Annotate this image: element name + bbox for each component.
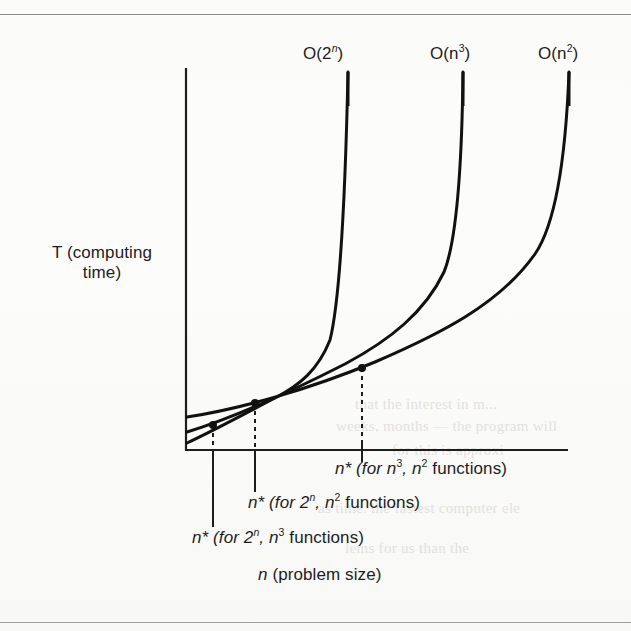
annotation-3-part-c: functions) [284, 528, 364, 547]
annotation-2-part-a: n* (for 2 [248, 493, 309, 512]
intersection-dot-exponential-quadratic [251, 399, 259, 407]
annotation-3-part-a: n* (for 2 [192, 528, 253, 547]
x-axis-label-variable: n [258, 565, 268, 584]
x-axis-label: n (problem size) [258, 565, 381, 585]
curve-label-exponential-prefix: O(2 [303, 44, 332, 63]
figure-container: that the interest in m... weeks, months … [0, 0, 631, 631]
y-axis-label-line1: T (computing [52, 243, 152, 262]
x-axis-label-text: (problem size) [268, 565, 382, 584]
intersection-dot-exponential-cubic [209, 421, 217, 429]
annotation-crossover-exponential-quadratic: n* (for 2n, n2 functions) [248, 493, 420, 513]
annotation-2-part-c: functions) [340, 493, 420, 512]
annotation-2-part-b: , n [315, 493, 334, 512]
intersection-dot-cubic-quadratic [358, 364, 366, 372]
annotation-1-part-a: n* (for n [335, 459, 396, 478]
curve-label-cubic-prefix: O(n [430, 44, 459, 63]
y-axis-label: T (computing time) [26, 243, 178, 283]
annotation-crossover-cubic-quadratic: n* (for n3, n2 functions) [335, 459, 507, 479]
curve-label-exponential-suffix: ) [338, 44, 344, 63]
annotation-1-part-c: functions) [427, 459, 507, 478]
curve-label-quadratic-prefix: O(n [538, 44, 567, 63]
curve-label-exponential: O(2n) [303, 44, 343, 64]
annotation-1-part-b: , n [402, 459, 421, 478]
curve-label-quadratic-suffix: ) [573, 44, 579, 63]
curve-label-quadratic: O(n2) [538, 44, 578, 64]
curve-exponential [187, 72, 348, 443]
y-axis-label-line2: time) [83, 263, 121, 282]
annotation-crossover-exponential-cubic: n* (for 2n, n3 functions) [192, 528, 364, 548]
curve-cubic [187, 72, 463, 432]
curve-quadratic [187, 72, 569, 417]
curve-label-cubic-suffix: ) [465, 44, 471, 63]
annotation-3-part-b: , n [259, 528, 278, 547]
curve-label-cubic: O(n3) [430, 44, 470, 64]
